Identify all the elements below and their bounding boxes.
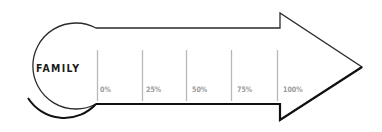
tick-label-0: 0% [100, 85, 111, 94]
diagram-title: FAMILY [36, 62, 80, 75]
tick-label-100: 100% [283, 85, 303, 94]
tick-label-50: 50% [192, 85, 207, 94]
tick-label-75: 75% [237, 85, 252, 94]
tick-label-25: 25% [146, 85, 161, 94]
